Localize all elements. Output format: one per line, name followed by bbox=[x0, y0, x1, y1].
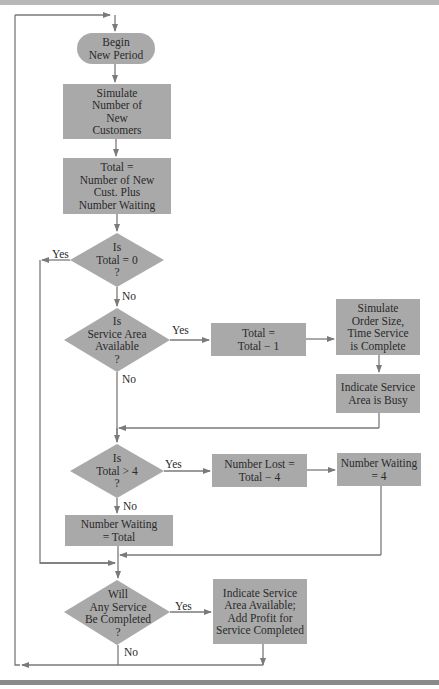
node-text-line: Add Profit for bbox=[227, 612, 292, 625]
edge-label-no: No bbox=[122, 373, 136, 385]
number-waiting-four-box: Number Waiting = 4 bbox=[337, 453, 421, 486]
number-waiting-total-box: Number Waiting = Total bbox=[65, 515, 173, 546]
node-text-line: Time Service bbox=[347, 327, 408, 340]
node-text-line: Indicate Service bbox=[223, 587, 297, 600]
edge-label-yes: Yes bbox=[172, 324, 189, 336]
edge-label-no: No bbox=[122, 290, 136, 302]
node-text-line: Number Waiting bbox=[81, 518, 157, 531]
indicate-area-available-box: Indicate Service Area Available; Add Pro… bbox=[213, 579, 307, 644]
node-text-line: Total − 1 bbox=[238, 340, 279, 353]
node-text-line: = 4 bbox=[371, 470, 386, 483]
indicate-area-busy-box: Indicate Service Area is Busy bbox=[336, 374, 420, 413]
simulate-order-size-box: Simulate Order Size, Time Service is Com… bbox=[336, 299, 420, 355]
node-text-line: Order Size, bbox=[352, 315, 404, 328]
node-text-line: ? bbox=[114, 353, 119, 366]
node-text-line: Is bbox=[113, 452, 121, 465]
node-text-line: Available bbox=[95, 340, 139, 353]
decision-service-area-available: Is Service Area Available ? bbox=[72, 313, 162, 367]
node-text-line: Area Available; bbox=[224, 599, 296, 612]
node-text-line: Number of bbox=[92, 99, 142, 112]
simulate-new-customers-box: Simulate Number of New Customers bbox=[63, 84, 171, 139]
decision-is-total-zero: Is Total = 0 ? bbox=[77, 237, 157, 283]
node-text-line: New bbox=[106, 112, 128, 125]
node-text-line: Total = bbox=[242, 327, 275, 340]
node-text-line: Will bbox=[108, 588, 128, 601]
node-text-line: Simulate bbox=[97, 87, 138, 100]
edge-label-yes: Yes bbox=[52, 248, 69, 260]
node-text-line: Number of New bbox=[80, 174, 155, 187]
edge-label-yes: Yes bbox=[175, 600, 192, 612]
node-text-line: Begin bbox=[102, 36, 129, 49]
node-text-line: Number Waiting bbox=[341, 457, 417, 470]
bottom-border bbox=[0, 680, 439, 685]
node-text-line: Cust. Plus bbox=[94, 186, 141, 199]
number-lost-box: Number Lost = Total − 4 bbox=[212, 454, 307, 487]
node-text-line: ? bbox=[115, 626, 120, 639]
node-text-line: Indicate Service bbox=[341, 381, 415, 394]
node-text-line: Be Completed bbox=[85, 613, 151, 626]
edge-label-no: No bbox=[123, 500, 137, 512]
edge-label-yes: Yes bbox=[165, 458, 182, 470]
node-text-line: ? bbox=[114, 477, 119, 490]
node-text-line: Customers bbox=[92, 124, 141, 137]
node-text-line: Service Completed bbox=[216, 624, 304, 637]
begin-new-period-terminal: Begin New Period bbox=[77, 33, 155, 64]
node-text-line: New Period bbox=[89, 49, 144, 62]
node-text-line: Total > 4 bbox=[96, 465, 137, 478]
node-text-line: Total − 4 bbox=[239, 471, 280, 484]
node-text-line: Number Lost = bbox=[224, 458, 294, 471]
node-text-line: Total = 0 bbox=[96, 254, 137, 267]
edge-label-no: No bbox=[124, 646, 138, 658]
node-text-line: Simulate bbox=[358, 302, 399, 315]
node-text-line: Is bbox=[113, 241, 121, 254]
node-text-line: = Total bbox=[103, 531, 136, 544]
node-text-line: Area is Busy bbox=[348, 394, 407, 407]
node-text-line: Total = bbox=[101, 161, 134, 174]
node-text-line: Any Service bbox=[89, 601, 146, 614]
node-text-line: is Complete bbox=[350, 340, 405, 353]
node-text-line: Is bbox=[113, 315, 121, 328]
decision-service-completed: Will Any Service Be Completed ? bbox=[70, 585, 166, 641]
decision-total-greater-than-four: Is Total > 4 ? bbox=[77, 448, 157, 494]
node-text-line: Service Area bbox=[87, 328, 146, 341]
node-text-line: Number Waiting bbox=[79, 199, 155, 212]
node-text-line: ? bbox=[114, 266, 119, 279]
compute-total-box: Total = Number of New Cust. Plus Number … bbox=[63, 158, 171, 214]
decrement-total-box: Total = Total − 1 bbox=[211, 323, 306, 356]
